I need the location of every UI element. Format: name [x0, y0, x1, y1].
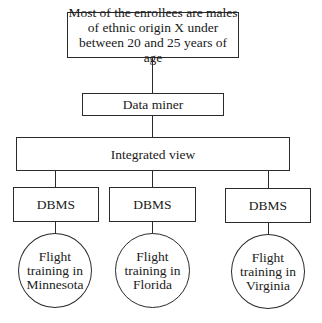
source-1-line-3: Minnesota — [22, 278, 88, 292]
source-2-line-3: Florida — [120, 278, 186, 292]
connector-integrated-to-dbms-2 — [152, 171, 153, 187]
source-1-line-2: training in — [22, 264, 88, 278]
source-3-line-2: training in — [235, 265, 301, 279]
source-circle-virginia: Flight training in Virginia — [231, 234, 305, 309]
integrated-view-box: Integrated view — [16, 137, 290, 171]
connector-integrated-to-dbms-1 — [55, 171, 56, 187]
source-3-line-3: Virginia — [235, 279, 301, 293]
source-1-line-1: Flight — [22, 250, 88, 264]
data-miner-label: Data miner — [123, 97, 183, 112]
result-line-1: Most of the enrollees are males — [68, 5, 238, 20]
source-3-line-1: Flight — [235, 251, 301, 265]
source-2-line-1: Flight — [120, 250, 186, 264]
result-box: Most of the enrollees are males of ethni… — [67, 12, 239, 58]
dbms-label-2: DBMS — [133, 197, 171, 212]
integrated-view-label: Integrated view — [111, 147, 195, 162]
source-circle-minnesota: Flight training in Minnesota — [18, 233, 92, 308]
result-line-2: of ethnic origin X under — [68, 20, 238, 35]
result-line-3: between 20 and 25 years of age — [68, 35, 238, 65]
connector-miner-to-integrated — [152, 116, 153, 137]
data-mining-diagram: Most of the enrollees are males of ethni… — [0, 0, 322, 323]
connector-integrated-to-dbms-3 — [268, 171, 269, 188]
source-circle-florida: Flight training in Florida — [115, 233, 190, 308]
dbms-label-3: DBMS — [249, 198, 287, 213]
data-miner-box: Data miner — [82, 93, 224, 116]
connector-result-to-miner — [152, 58, 153, 93]
dbms-box-1: DBMS — [13, 187, 99, 222]
dbms-box-3: DBMS — [225, 188, 311, 223]
dbms-label-1: DBMS — [37, 197, 75, 212]
source-2-line-2: training in — [120, 264, 186, 278]
dbms-box-2: DBMS — [109, 187, 196, 222]
